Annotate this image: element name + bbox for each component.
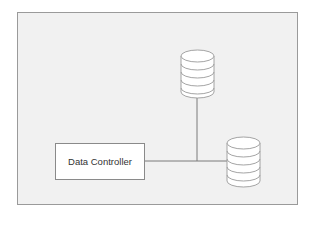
data-controller-label: Data Controller [68,156,132,167]
database-icon [181,50,214,98]
data-controller-node: Data Controller [55,143,145,180]
database-icon [227,137,260,187]
diagram-canvas [0,0,313,239]
connector-lines [145,98,227,161]
